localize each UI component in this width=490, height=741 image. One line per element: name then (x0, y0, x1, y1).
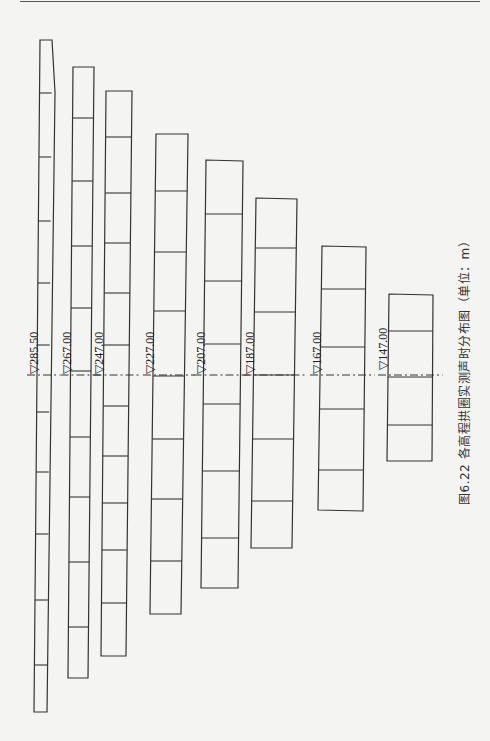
segment-outline (201, 160, 243, 588)
elevation-label-285: ▽285.50 (27, 332, 42, 374)
column-207 (193, 160, 250, 588)
elevation-label-167: ▽167.00 (310, 332, 325, 374)
elevation-label-187: ▽187.00 (243, 332, 258, 374)
column-147 (378, 294, 442, 461)
elevation-label-207: ▽207.00 (194, 332, 209, 374)
elevation-label-247: ▽247.00 (92, 332, 107, 374)
segment-outline (34, 40, 55, 712)
elevation-label-147: ▽147.00 (376, 328, 391, 370)
segment-outline (150, 134, 188, 614)
column-227 (143, 134, 194, 614)
column-285-5 (27, 40, 59, 712)
elevation-label-227: ▽227.00 (143, 332, 158, 374)
elevation-label-267: ▽267.00 (60, 332, 75, 374)
segment-outline (318, 246, 366, 511)
figure-caption: 图6.22 各高程拱圈实测声时分布图（单位：m） (455, 235, 472, 505)
column-167 (310, 246, 374, 511)
